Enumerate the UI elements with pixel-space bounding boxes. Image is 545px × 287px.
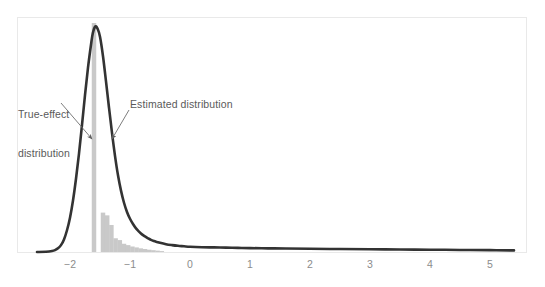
estimated-arrow bbox=[112, 110, 129, 139]
x-tick-label: −1 bbox=[124, 258, 136, 270]
annotation-true-effect-line2: distribution bbox=[18, 147, 70, 160]
x-tick-label: 2 bbox=[307, 258, 313, 270]
x-tick-label: −2 bbox=[64, 258, 76, 270]
chart-root: True-effect distribution Estimated distr… bbox=[0, 0, 545, 287]
x-tick-label: 4 bbox=[427, 258, 433, 270]
annotation-true-effect-line1: True-effect bbox=[18, 108, 70, 121]
annotation-estimated-distribution: Estimated distribution bbox=[130, 98, 233, 111]
x-tick-label: 3 bbox=[367, 258, 373, 270]
annotation-arrow-layer bbox=[0, 0, 545, 287]
annotation-true-effect-distribution: True-effect distribution bbox=[18, 82, 70, 186]
x-tick-label: 1 bbox=[247, 258, 253, 270]
x-tick-label: 5 bbox=[487, 258, 493, 270]
x-tick-label: 0 bbox=[187, 258, 193, 270]
